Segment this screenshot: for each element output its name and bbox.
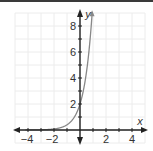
x-tick-label: 4 xyxy=(129,133,135,145)
y-axis-down-arrow-icon xyxy=(77,137,83,145)
axes xyxy=(13,9,148,145)
x-tick-label: −4 xyxy=(21,133,34,145)
y-tick-label: 8 xyxy=(70,20,76,32)
exponential-chart: −4 −2 2 4 2 4 6 8 x y xyxy=(0,0,153,151)
x-axis-label: x xyxy=(136,115,143,127)
y-tick-label: 4 xyxy=(70,72,76,84)
y-tick-label: 6 xyxy=(70,46,76,58)
tick-labels: −4 −2 2 4 2 4 6 8 x y xyxy=(21,8,144,145)
x-tick-label: −2 xyxy=(46,133,59,145)
exponential-curve xyxy=(25,12,92,130)
curve xyxy=(25,10,94,130)
x-axis-left-arrow-icon xyxy=(13,127,20,133)
y-tick-label: 2 xyxy=(70,98,76,110)
x-tick-label: 2 xyxy=(103,133,109,145)
